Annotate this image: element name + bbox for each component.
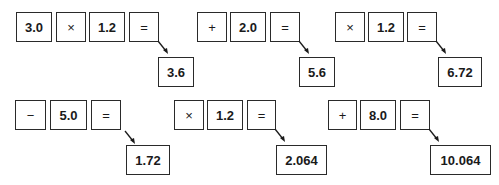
arrow-icon (124, 130, 138, 146)
operator-box: × (335, 12, 365, 42)
arrow-icon (298, 40, 312, 56)
operator-box: × (174, 100, 204, 130)
equals-box: = (129, 12, 159, 42)
arrow-icon (274, 128, 288, 144)
result-box: 2.064 (276, 145, 327, 175)
operand-box: 1.2 (89, 12, 125, 42)
result-box: 3.6 (158, 57, 194, 87)
input-box: 3.0 (16, 12, 52, 42)
operand-box: 1.2 (207, 100, 243, 130)
operator-box: − (15, 100, 46, 130)
arrow-icon (157, 40, 171, 56)
result-box: 10.064 (430, 145, 491, 175)
equals-box: = (270, 12, 300, 42)
equals-box: = (400, 100, 430, 130)
arrow-icon (428, 128, 442, 144)
operand-box: 2.0 (230, 12, 266, 42)
arrow-icon (435, 40, 449, 56)
result-box: 6.72 (438, 57, 482, 87)
equals-box: = (407, 12, 437, 42)
equals-box: = (247, 100, 276, 130)
operand-box: 1.2 (368, 12, 404, 42)
operator-box: + (328, 100, 357, 130)
result-box: 5.6 (299, 57, 335, 87)
result-box: 1.72 (126, 145, 170, 175)
operand-box: 5.0 (50, 100, 87, 130)
equals-box: = (91, 100, 121, 130)
operand-box: 8.0 (360, 100, 396, 130)
operator-box: + (197, 12, 227, 42)
operator-box: × (56, 12, 86, 42)
